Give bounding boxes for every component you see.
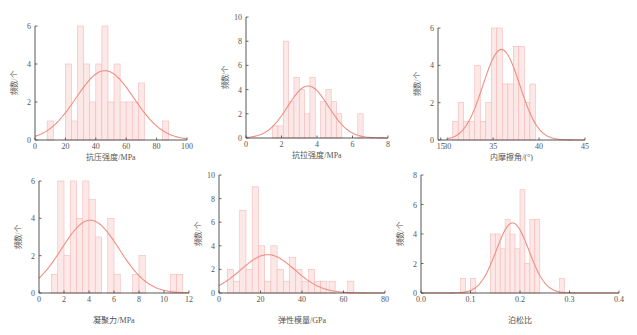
x-tick-label: 4 <box>87 295 91 304</box>
histogram-bar <box>294 78 299 139</box>
y-tick-label: 4 <box>211 242 215 251</box>
y-axis-title: 频数/个 <box>193 221 203 245</box>
histogram-bar <box>290 258 296 293</box>
x-tick-label: 4 <box>315 140 319 149</box>
histogram-bar <box>519 47 525 140</box>
histogram-bar <box>120 102 126 140</box>
chart-ucs: 0204060801000246抗压强度/MPa频数/个 <box>9 22 193 162</box>
histogram-bar <box>305 114 310 138</box>
chart-modulus: 0204060800246810弹性模量/GPa频数/个 <box>193 171 389 325</box>
histogram-bar <box>271 246 277 293</box>
x-tick-label: 60 <box>122 142 130 151</box>
y-tick-label: 6 <box>413 201 417 210</box>
histogram-bar <box>326 90 331 138</box>
x-axis-title: 内摩擦角/(°) <box>490 152 533 162</box>
histogram-bar <box>348 281 354 293</box>
histogram-bar <box>486 103 492 140</box>
histogram-bar <box>277 269 283 293</box>
y-tick-label: 0 <box>27 136 31 145</box>
y-tick-label: 8 <box>413 171 417 180</box>
histogram-bar <box>71 121 77 140</box>
histogram-bar <box>227 269 233 293</box>
histogram-bars <box>52 181 183 293</box>
y-tick-label: 8 <box>211 195 215 204</box>
histogram-bar <box>90 102 96 140</box>
x-tick-label: 60 <box>340 295 348 304</box>
x-tick-label: 0 <box>37 295 41 304</box>
histogram-bar <box>525 264 530 294</box>
x-axis-title: 泊松比 <box>508 315 532 325</box>
chart-tensile: 024680246810抗拉强度/MPa频数/个 <box>220 13 390 160</box>
histogram-bar <box>258 246 264 293</box>
x-tick-label: 100 <box>181 142 193 151</box>
x-tick-label: 10 <box>160 295 168 304</box>
histogram-bar <box>458 103 464 140</box>
y-tick-label: 4 <box>238 86 242 95</box>
y-tick-label: 2 <box>413 260 417 269</box>
x-tick-label: 8 <box>386 140 390 149</box>
y-tick-label: 0 <box>31 289 35 298</box>
y-tick-label: 10 <box>207 171 215 180</box>
y-tick-label: 8 <box>238 37 242 46</box>
histogram-bar <box>560 278 565 293</box>
x-tick-label: 0.0 <box>416 295 426 304</box>
x-tick-label: 20 <box>61 142 69 151</box>
histogram-bar <box>163 121 169 140</box>
y-tick-label: 6 <box>238 61 242 70</box>
histogram-bar <box>289 102 294 138</box>
y-tick-label: 6 <box>430 24 434 33</box>
x-tick-label: 80 <box>381 295 389 304</box>
chart-friction: 15303540450246内摩擦角/(°)频数/个 <box>412 24 589 162</box>
x-tick-label: 0.1 <box>466 295 476 304</box>
histogram-bar <box>108 102 114 140</box>
y-tick-label: 4 <box>430 61 434 70</box>
histogram-bar <box>265 281 271 293</box>
y-tick-label: 6 <box>31 177 35 186</box>
histogram-bar <box>461 278 466 293</box>
histogram-bar <box>469 121 475 140</box>
histogram-bar <box>170 274 176 293</box>
y-axis-title: 频数/个 <box>9 70 19 94</box>
y-tick-label: 2 <box>238 110 242 119</box>
histogram-bar <box>234 281 240 293</box>
histogram-bar <box>283 281 289 293</box>
y-axis-title: 频数/个 <box>13 224 23 248</box>
histogram-bar <box>515 249 520 293</box>
histogram-bar <box>252 187 258 293</box>
histogram-bar <box>337 114 342 138</box>
x-tick-label: 8 <box>137 295 141 304</box>
histogram-bar <box>502 84 508 140</box>
histogram-bar <box>126 102 132 140</box>
histogram-bar <box>505 219 510 293</box>
histogram-bar <box>132 102 138 140</box>
histogram-bar <box>89 200 95 293</box>
x-tick-label: 30 <box>443 142 451 151</box>
histogram-bar <box>108 218 114 293</box>
x-tick-label: 0.2 <box>515 295 525 304</box>
histogram-bar <box>524 103 530 140</box>
x-tick-label: 6 <box>351 140 355 149</box>
normal-fit-curve <box>246 86 388 138</box>
y-tick-label: 2 <box>211 265 215 274</box>
x-tick-label: 20 <box>257 295 265 304</box>
histogram-bar <box>283 41 288 138</box>
histogram-bar <box>520 190 525 293</box>
x-tick-label: 0.4 <box>614 295 624 304</box>
histogram-bar <box>77 218 83 293</box>
chart-poisson: 0.00.10.20.30.402468泊松比频数/个 <box>395 171 624 325</box>
y-tick-label: 6 <box>27 22 31 31</box>
histogram-bar <box>96 64 102 140</box>
y-tick-label: 0 <box>238 134 242 143</box>
y-tick-label: 0 <box>413 289 417 298</box>
histogram-bar <box>500 249 505 293</box>
y-tick-label: 4 <box>27 60 31 69</box>
histogram-bar <box>358 114 363 138</box>
histogram-bar <box>321 102 326 138</box>
histogram-bar <box>510 234 515 293</box>
histogram-grid: 0204060801000246抗压强度/MPa频数/个024680246810… <box>0 0 637 335</box>
x-tick-label: 0 <box>33 142 37 151</box>
histogram-bar <box>78 26 84 140</box>
histogram-bar <box>246 269 252 293</box>
histogram-bar <box>321 281 327 293</box>
histogram-bar <box>102 26 108 140</box>
